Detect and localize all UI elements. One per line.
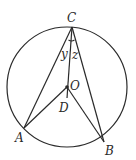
center-point-o: [65, 85, 69, 89]
label-d: D: [58, 101, 69, 115]
label-c: C: [67, 11, 76, 25]
label-b: B: [104, 144, 114, 158]
label-o: O: [70, 79, 80, 93]
segment-ob: [67, 87, 104, 142]
angle-label-z: z: [71, 48, 79, 62]
label-a: A: [14, 131, 24, 145]
circle-diagram: C O D A B y z: [0, 0, 136, 160]
angle-label-y: y: [60, 47, 68, 61]
